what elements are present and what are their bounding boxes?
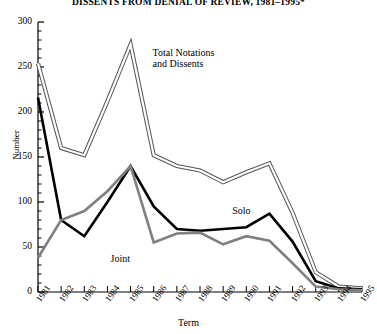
data-series [38,45,362,291]
series-label-joint: Joint [111,253,130,264]
y-tick-label: 50 [6,241,32,251]
series-label-solo: Solo [232,205,250,216]
series-label-total-line1: Total Notations [153,47,215,59]
y-tick-label: 300 [6,16,32,26]
series-label-total-line2: and Dissents [153,58,215,70]
y-tick-label: 250 [6,61,32,71]
y-tick-label: 150 [6,151,32,161]
y-tick-label: 200 [6,106,32,116]
series-label-total: Total Notations and Dissents [153,47,215,70]
chart-container: DISSENTS FROM DENIAL OF REVIEW, 1981–199… [0,0,377,334]
y-tick-label: 100 [6,196,32,206]
y-tick-label: 0 [6,286,32,296]
